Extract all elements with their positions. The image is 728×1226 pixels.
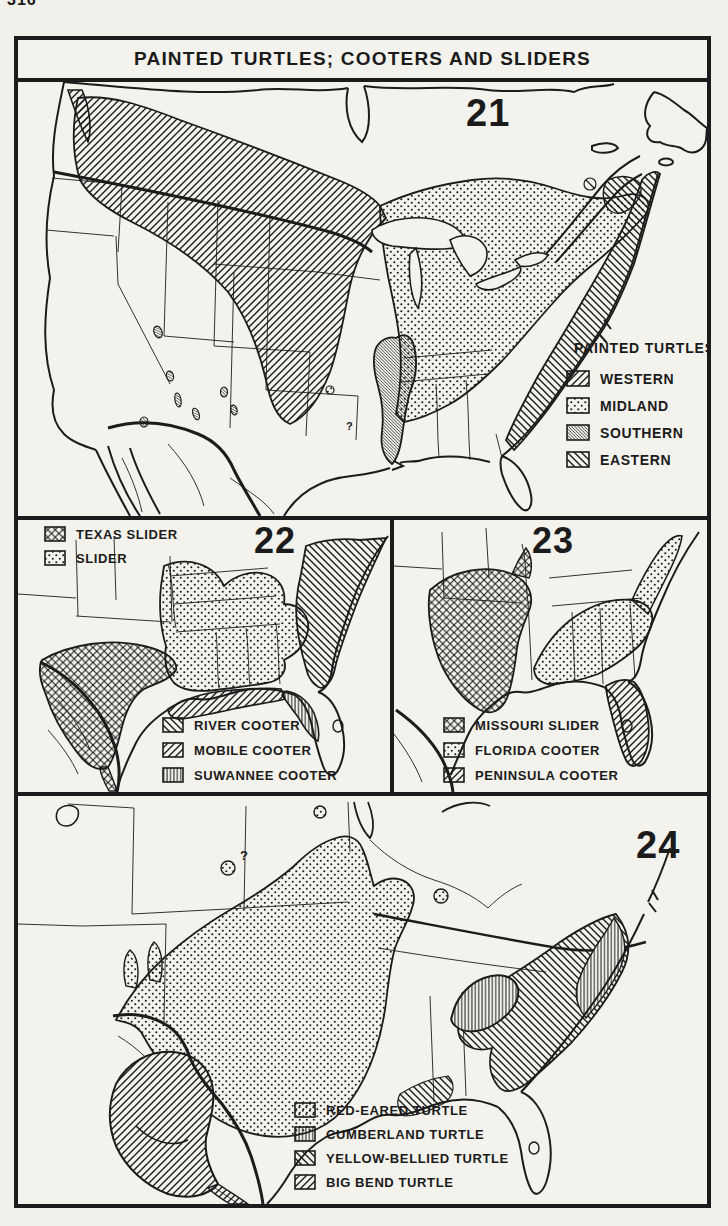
map-24-uncertainty-mark: ? (240, 848, 248, 863)
region-big-bend-turtle (110, 1052, 218, 1197)
legend-row-midland: MIDLAND (566, 397, 669, 414)
legend-label-florida-cooter: FLORIDA COOTER (475, 743, 600, 758)
region-mobile-cooter (168, 688, 285, 719)
region-texas-slider (40, 642, 176, 769)
figure-title: PAINTED TURTLES; COOTERS AND SLIDERS (134, 48, 591, 70)
region-red-eared-finger-2 (148, 942, 162, 982)
legend-row-suwannee-cooter: SUWANNEE COOTER (162, 767, 337, 783)
swatch-river-cooter-icon (162, 717, 184, 733)
legend-label-southern: SOUTHERN (600, 425, 683, 441)
legend-row-cumberland: CUMBERLAND TURTLE (294, 1126, 484, 1142)
lake-michigan-tip (354, 802, 373, 838)
map-24-number: 24 (636, 824, 680, 867)
legend-label-texas-slider: TEXAS SLIDER (76, 527, 178, 542)
legend-label-midland: MIDLAND (600, 398, 669, 414)
map-panel-sliders-cooters-east: 23 MISSOURI SLIDER FLORIDA COOTER PENINS… (394, 520, 707, 792)
legend-label-big-bend: BIG BEND TURTLE (326, 1175, 453, 1190)
legend-row-slider: SLIDER (44, 550, 127, 566)
page-number: 316 (7, 0, 37, 9)
legend-label-western: WESTERN (600, 371, 674, 387)
map-panel-sliders-cooters-west: 22 TEXAS SLIDER SLIDER RIVER COOTER MOBI… (18, 520, 390, 792)
region-red-eared-finger-1 (124, 950, 138, 988)
legend-label-slider: SLIDER (76, 551, 127, 566)
region-big-bend-tail (208, 1184, 248, 1204)
figure-border: PAINTED TURTLES; COOTERS AND SLIDERS (14, 36, 711, 1208)
region-texas-slider-tail (100, 767, 117, 791)
swatch-western-icon (566, 370, 590, 387)
legend-row-peninsula-cooter: PENINSULA COOTER (443, 767, 618, 783)
legend-label-suwannee-cooter: SUWANNEE COOTER (194, 768, 337, 783)
region-florida-cooter-coastal-strip (632, 536, 682, 614)
legend-row-western: WESTERN (566, 370, 674, 387)
nw-corner-blob (56, 806, 78, 827)
swatch-southern-icon (566, 424, 590, 441)
swatch-slider-icon (44, 550, 66, 566)
legend-row-mobile-cooter: MOBILE COOTER (162, 742, 312, 758)
map-21-number: 21 (466, 92, 510, 135)
legend-label-yellow-bellied: YELLOW-BELLIED TURTLE (326, 1151, 509, 1166)
legend-row-florida-cooter: FLORIDA COOTER (443, 742, 600, 758)
figure-title-bar: PAINTED TURTLES; COOTERS AND SLIDERS (18, 40, 707, 82)
swatch-eastern-icon (566, 451, 590, 468)
legend-label-red-eared: RED-EARED TURTLE (326, 1103, 468, 1118)
legend-row-eastern: EASTERN (566, 451, 671, 468)
legend-row-texas-slider: TEXAS SLIDER (44, 526, 178, 542)
legend-label-peninsula-cooter: PENINSULA COOTER (475, 768, 618, 783)
legend-label-cumberland: CUMBERLAND TURTLE (326, 1127, 484, 1142)
swatch-midland-icon (566, 397, 590, 414)
swatch-big-bend-icon (294, 1174, 316, 1190)
swatch-missouri-slider-icon (443, 717, 465, 733)
legend-label-mobile-cooter: MOBILE COOTER (194, 743, 312, 758)
map-24-canvas (18, 796, 707, 1204)
map-23-number: 23 (532, 520, 574, 562)
legend-label-eastern: EASTERN (600, 452, 671, 468)
swatch-mobile-cooter-icon (162, 742, 184, 758)
swatch-cumberland-icon (294, 1126, 316, 1142)
region-slider (160, 562, 308, 691)
map-panel-red-eared-group: 24 ? RED-EARED TURTLE CUMBERLAND TURTLE … (18, 796, 707, 1204)
lake-erie-shore (442, 803, 490, 812)
swatch-red-eared-icon (294, 1102, 316, 1118)
spot-stripe (586, 180, 595, 189)
legend-label-river-cooter: RIVER COOTER (194, 718, 300, 733)
legend-row-yellow-bellied: YELLOW-BELLIED TURTLE (294, 1150, 509, 1166)
legend-row-big-bend: BIG BEND TURTLE (294, 1174, 453, 1190)
map-21-legend-title: PAINTED TURTLES (574, 340, 707, 356)
legend-row-river-cooter: RIVER COOTER (162, 717, 300, 733)
region-western-painted-turtle (74, 97, 386, 424)
map-21-uncertainty-mark: ? (346, 420, 353, 432)
swatch-florida-cooter-icon (443, 742, 465, 758)
swatch-peninsula-cooter-icon (443, 767, 465, 783)
legend-label-missouri-slider: MISSOURI SLIDER (475, 718, 600, 733)
map-22-number: 22 (254, 520, 296, 562)
legend-row-southern: SOUTHERN (566, 424, 683, 441)
region-peninsula-cooter (606, 680, 649, 766)
map-panel-painted-turtles: 21 ? PAINTED TURTLES WESTERN MIDLAND SOU… (18, 82, 707, 516)
region-missouri-slider-finger (512, 548, 531, 578)
legend-row-red-eared: RED-EARED TURTLE (294, 1102, 468, 1118)
swatch-yellow-bellied-icon (294, 1150, 316, 1166)
swatch-suwannee-cooter-icon (162, 767, 184, 783)
swatch-texas-slider-icon (44, 526, 66, 542)
legend-row-missouri-slider: MISSOURI SLIDER (443, 717, 600, 733)
